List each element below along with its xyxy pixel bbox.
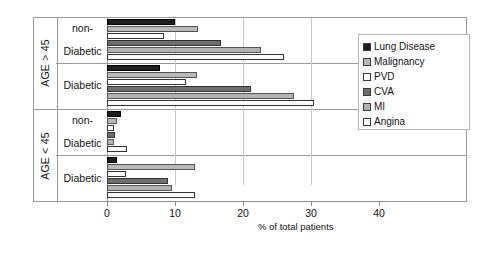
legend-item-malignancy: Malignancy bbox=[363, 54, 466, 69]
bar-malignancy bbox=[107, 26, 198, 32]
bar-cva bbox=[107, 132, 115, 138]
legend-swatch-icon bbox=[363, 58, 371, 66]
bar-malignancy bbox=[107, 118, 117, 124]
bar-mi bbox=[107, 139, 114, 145]
bar-lung-disease bbox=[107, 111, 121, 117]
age-label-text: AGE > 45 bbox=[39, 39, 51, 86]
category-column-divider bbox=[57, 17, 58, 202]
legend: Lung DiseaseMalignancyPVDCVAMIAngina bbox=[358, 34, 470, 130]
legend-item-pvd: PVD bbox=[363, 69, 466, 84]
group-label-under45-diabetic: Diabetic bbox=[57, 155, 108, 202]
bar-cva bbox=[107, 178, 168, 184]
legend-item-mi: MI bbox=[363, 99, 466, 114]
x-axis-line bbox=[107, 201, 387, 202]
bar-lung-disease bbox=[107, 157, 117, 163]
x-tick-20 bbox=[243, 201, 244, 206]
legend-swatch-icon bbox=[363, 88, 371, 96]
bar-mi bbox=[107, 93, 294, 99]
legend-label: Angina bbox=[374, 116, 405, 127]
bar-malignancy bbox=[107, 164, 195, 170]
legend-swatch-icon bbox=[363, 118, 371, 126]
x-tick-label-30: 30 bbox=[305, 207, 317, 219]
legend-label: Malignancy bbox=[374, 56, 425, 67]
bar-pvd bbox=[107, 79, 186, 85]
x-tick-40 bbox=[379, 201, 380, 206]
bar-pvd bbox=[107, 33, 164, 39]
bar-lung-disease bbox=[107, 65, 160, 71]
bar-angina bbox=[107, 192, 195, 198]
legend-item-angina: Angina bbox=[363, 114, 466, 129]
bar-group-under45-diabetic bbox=[107, 157, 467, 201]
group-label-text: non-Diabetic bbox=[64, 23, 102, 58]
legend-swatch-icon bbox=[363, 43, 371, 51]
legend-label: CVA bbox=[374, 86, 394, 97]
x-tick-label-40: 40 bbox=[373, 207, 385, 219]
bar-cva bbox=[107, 40, 221, 46]
age-label-text: AGE < 45 bbox=[39, 132, 51, 179]
bar-angina bbox=[107, 100, 314, 106]
group-label-over45-diabetic: Diabetic bbox=[57, 63, 108, 109]
bar-pvd bbox=[107, 171, 126, 177]
bar-cva bbox=[107, 86, 251, 92]
bar-angina bbox=[107, 146, 127, 152]
bar-angina bbox=[107, 54, 284, 60]
bar-lung-disease bbox=[107, 19, 175, 25]
x-tick-0 bbox=[107, 201, 108, 206]
legend-label: MI bbox=[374, 101, 385, 112]
age-group-label-over45: AGE > 45 bbox=[33, 17, 57, 109]
legend-swatch-icon bbox=[363, 73, 371, 81]
legend-item-lung-disease: Lung Disease bbox=[363, 39, 466, 54]
x-tick-label-20: 20 bbox=[237, 207, 249, 219]
x-axis-title: % of total patients bbox=[258, 221, 334, 232]
group-label-over45-nondiabetic: non-Diabetic bbox=[57, 17, 108, 63]
group-label-text: non-Diabetic bbox=[64, 115, 102, 150]
legend-swatch-icon bbox=[363, 103, 371, 111]
bar-mi bbox=[107, 185, 172, 191]
bar-malignancy bbox=[107, 72, 197, 78]
x-tick-label-0: 0 bbox=[104, 207, 110, 219]
legend-item-cva: CVA bbox=[363, 84, 466, 99]
legend-label: PVD bbox=[374, 71, 395, 82]
group-label-under45-nondiabetic: non-Diabetic bbox=[57, 109, 108, 155]
bar-mi bbox=[107, 47, 261, 53]
legend-label: Lung Disease bbox=[374, 41, 435, 52]
group-label-text: Diabetic bbox=[64, 173, 102, 185]
age-group-label-under45: AGE < 45 bbox=[33, 109, 57, 202]
bar-pvd bbox=[107, 125, 114, 131]
group-label-text: Diabetic bbox=[64, 80, 102, 92]
chart-figure: AGE > 45 AGE < 45 non-Diabetic Diabetic … bbox=[0, 0, 482, 260]
x-tick-label-10: 10 bbox=[169, 207, 181, 219]
x-tick-10 bbox=[175, 201, 176, 206]
x-tick-30 bbox=[311, 201, 312, 206]
